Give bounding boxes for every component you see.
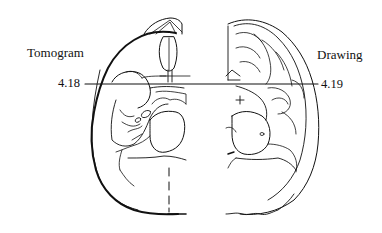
section-marker-left: 4.18 [58, 76, 80, 91]
section-marker-right: 4.19 [321, 77, 343, 92]
drawing-label: Drawing [317, 47, 363, 63]
skull-line-drawing [0, 0, 382, 233]
tomogram-label: Tomogram [27, 45, 84, 61]
anatomical-figure: Tomogram Drawing 4.18 4.19 [0, 0, 382, 233]
